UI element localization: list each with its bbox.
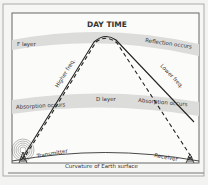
ionosphere-diagram: DAY TIME F layer Reflection occurs Absor… bbox=[0, 0, 208, 185]
f-layer-label: F layer bbox=[17, 41, 36, 48]
earth-label: Curvature of Earth surface bbox=[65, 163, 139, 169]
diagram-title: DAY TIME bbox=[87, 20, 127, 29]
d-layer-label: D layer bbox=[96, 96, 117, 103]
